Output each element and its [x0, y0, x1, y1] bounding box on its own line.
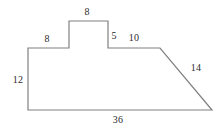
polygon-shape [28, 21, 212, 110]
edge-label-ledge-horizontal: 10 [129, 33, 139, 43]
polygon-figure: 8 8 5 10 14 12 36 [0, 0, 223, 129]
edge-label-diagonal: 14 [191, 63, 201, 73]
edge-label-step-top-horizontal: 8 [84, 7, 89, 17]
edge-label-left-vertical: 12 [13, 75, 23, 85]
edge-label-step-right-vertical: 5 [111, 31, 116, 41]
edge-label-top-left-horizontal: 8 [44, 34, 49, 44]
edge-label-bottom-horizontal: 36 [113, 115, 123, 125]
polygon-outline-svg [0, 0, 223, 129]
